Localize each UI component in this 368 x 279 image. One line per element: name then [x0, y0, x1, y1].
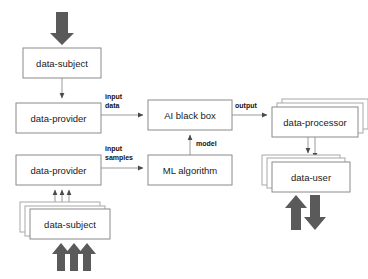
thick-arrow-data-user-up [285, 195, 307, 230]
thick-arrow-subject-stack-3 [78, 243, 96, 271]
edge-label-input-data-line2: data [105, 102, 120, 109]
edge-label-model: model [196, 140, 217, 147]
node-data-subject-top-label: data-subject [36, 58, 88, 69]
node-data-subject-top[interactable]: data-subject [23, 48, 101, 78]
diagram-canvas: data-subject data-provider data-provider… [0, 0, 368, 279]
node-ml-algorithm-label: ML algorithm [163, 165, 218, 176]
node-data-provider-bottom-label: data-provider [31, 165, 87, 176]
node-ml-algorithm[interactable]: ML algorithm [148, 155, 232, 185]
edge-label-input-samples-line1: input [105, 145, 123, 153]
edge-label-input-data-line1: input [105, 93, 123, 101]
node-data-subject-stack-label: data-subject [44, 219, 96, 230]
edge-label-output-text: output [235, 102, 257, 110]
node-data-user-stack[interactable]: data-user [262, 155, 350, 192]
thick-arrow-data-user-down [304, 195, 326, 230]
node-data-processor-label: data-processor [283, 117, 346, 128]
node-data-provider-top[interactable]: data-provider [16, 103, 101, 133]
edge-label-output: output [235, 102, 257, 110]
thick-arrow-subject-stack-1 [52, 243, 70, 271]
edge-label-input-samples: input samples [105, 145, 133, 162]
edge-label-model-text: model [196, 140, 217, 147]
edge-label-input-samples-line2: samples [105, 154, 133, 162]
node-data-provider-bottom[interactable]: data-provider [16, 155, 101, 185]
thick-arrow-subject-stack-2 [65, 243, 83, 271]
node-data-processor-stack[interactable]: data-processor [272, 99, 368, 137]
data-flow-diagram: data-subject data-provider data-provider… [0, 0, 368, 279]
node-data-user-label: data-user [291, 172, 331, 183]
node-data-provider-top-label: data-provider [31, 113, 87, 124]
thick-arrow-top-input [50, 12, 74, 45]
node-ai-black-box[interactable]: AI black box [148, 100, 232, 130]
node-ai-black-box-label: AI black box [164, 110, 216, 121]
node-data-subject-stack[interactable]: data-subject [20, 202, 110, 239]
edge-label-input-data: input data [105, 93, 123, 109]
